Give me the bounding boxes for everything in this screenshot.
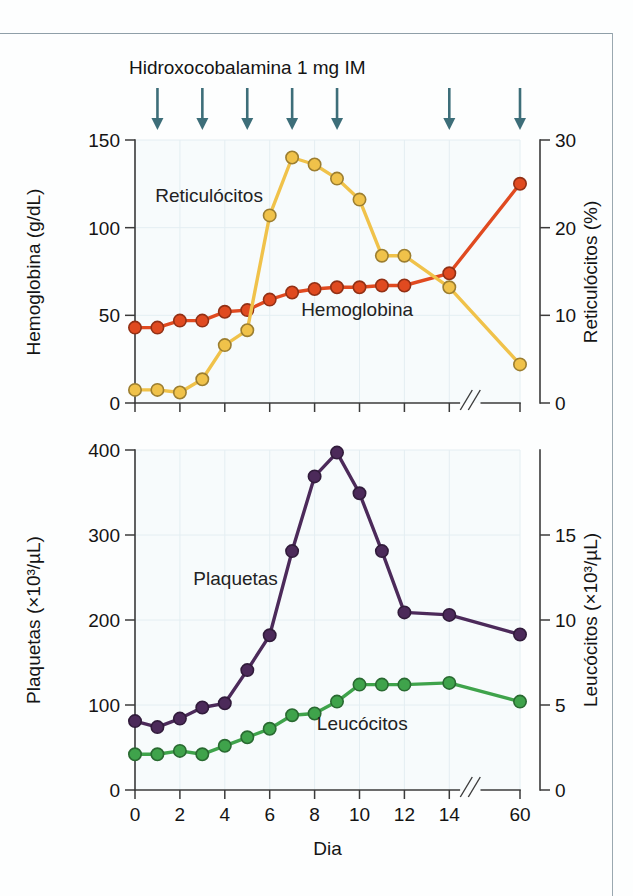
data-point [196,373,208,385]
svg-text:5: 5 [555,695,566,716]
data-point [376,279,388,291]
svg-text:10: 10 [349,804,370,825]
data-point [129,715,141,727]
data-point [514,628,526,640]
svg-text:0: 0 [130,804,141,825]
data-point [398,279,410,291]
data-point [264,629,276,641]
data-point [286,151,298,163]
data-point [331,172,343,184]
svg-text:0: 0 [109,393,120,414]
data-point [196,314,208,326]
data-point [241,731,253,743]
data-point [129,321,141,333]
data-point [129,748,141,760]
svg-text:0: 0 [109,780,120,801]
data-point [151,384,163,396]
svg-text:400: 400 [88,440,120,461]
dosing-annotation-title: Hidroxocobalamina 1 mg IM [129,57,366,78]
data-point [219,740,231,752]
data-point [174,745,186,757]
data-point [174,712,186,724]
svg-text:60: 60 [509,804,530,825]
bottom-right-axis-title: Leucócitos (×10³/µL) [580,533,601,707]
top-right-axis-title: Reticulócitos (%) [580,201,601,344]
svg-text:30: 30 [555,130,576,151]
label-leucocitos: Leucócitos [317,713,408,734]
data-point [376,250,388,262]
data-point [286,545,298,557]
svg-text:20: 20 [555,218,576,239]
data-point [376,545,388,557]
data-point [308,470,320,482]
clinical-response-chart: 0501001500102030010020030040005101502468… [0,0,633,896]
svg-text:0: 0 [555,393,566,414]
data-point [443,609,455,621]
svg-text:300: 300 [88,525,120,546]
data-point [514,358,526,370]
data-point [308,158,320,170]
dose-arrow-icon [241,88,253,130]
x-axis-title: Dia [313,838,342,859]
data-point [241,324,253,336]
dose-arrow-icon [443,88,455,130]
data-point [353,678,365,690]
data-point [151,748,163,760]
data-point [398,250,410,262]
data-point [353,487,365,499]
data-point [241,664,253,676]
data-point [443,267,455,279]
data-point [264,723,276,735]
data-point [331,446,343,458]
svg-text:150: 150 [88,130,120,151]
data-point [219,697,231,709]
data-point [264,293,276,305]
svg-text:4: 4 [220,804,231,825]
dose-arrow-icon [151,88,163,130]
data-point [353,281,365,293]
data-point [196,748,208,760]
data-point [174,386,186,398]
bottom-left-axis-title: Plaquetas (×10³/µL) [23,536,44,704]
data-point [331,281,343,293]
svg-text:6: 6 [264,804,275,825]
svg-text:8: 8 [309,804,320,825]
data-point [308,283,320,295]
data-point [443,281,455,293]
figure-container: 0501001500102030010020030040005101502468… [0,0,633,896]
data-point [264,209,276,221]
data-point [331,695,343,707]
dose-arrow-icon [286,88,298,130]
svg-text:100: 100 [88,218,120,239]
svg-text:14: 14 [439,804,461,825]
data-point [151,321,163,333]
top-left-axis-title: Hemoglobina (g/dL) [23,189,44,356]
data-point [151,721,163,733]
dose-arrow-icon [331,88,343,130]
dose-arrow-icon [514,88,526,130]
svg-text:15: 15 [555,525,576,546]
dose-arrow-icon [196,88,208,130]
data-point [398,606,410,618]
label-hemoglobina: Hemoglobina [301,299,413,320]
data-point [219,306,231,318]
data-point [286,709,298,721]
svg-text:200: 200 [88,610,120,631]
dose-arrows [151,88,526,130]
data-point [196,701,208,713]
label-reticulocitos: Reticulócitos [155,185,263,206]
data-point [514,178,526,190]
svg-text:12: 12 [394,804,415,825]
svg-text:100: 100 [88,695,120,716]
data-point [353,193,365,205]
label-plaquetas: Plaquetas [193,568,278,589]
svg-text:10: 10 [555,305,576,326]
data-point [398,678,410,690]
svg-text:0: 0 [555,780,566,801]
data-point [219,339,231,351]
data-point [514,695,526,707]
svg-text:2: 2 [175,804,186,825]
data-point [129,384,141,396]
data-point [443,677,455,689]
svg-text:10: 10 [555,610,576,631]
